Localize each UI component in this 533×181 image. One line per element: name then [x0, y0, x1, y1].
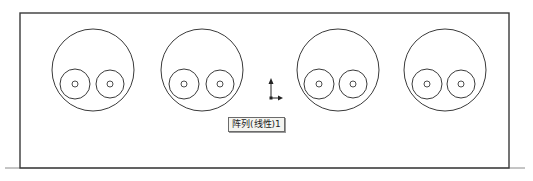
- tooltip-label: 阵列(线性)1: [232, 119, 281, 129]
- outer-circle[interactable]: [52, 29, 134, 111]
- pattern-instance-1[interactable]: [52, 29, 134, 111]
- hole-circle[interactable]: [447, 70, 475, 98]
- pattern-instance-2[interactable]: [161, 29, 243, 111]
- hole-center-circle[interactable]: [316, 81, 322, 87]
- cad-sketch-canvas[interactable]: [0, 0, 533, 181]
- outer-circle[interactable]: [161, 29, 243, 111]
- hole-center-circle[interactable]: [350, 81, 356, 87]
- hole-circle[interactable]: [96, 70, 124, 98]
- feature-tooltip: 阵列(线性)1: [228, 117, 285, 132]
- hole-circle[interactable]: [339, 70, 367, 98]
- hole-center-circle[interactable]: [181, 81, 187, 87]
- hole-center-circle[interactable]: [424, 81, 430, 87]
- sketch-frame[interactable]: [20, 13, 509, 168]
- hole-circle[interactable]: [60, 69, 90, 99]
- hole-circle[interactable]: [206, 70, 234, 98]
- outer-circle[interactable]: [404, 29, 486, 111]
- hole-circle[interactable]: [412, 69, 442, 99]
- hole-center-circle[interactable]: [458, 81, 464, 87]
- hole-circle[interactable]: [304, 69, 334, 99]
- hole-center-circle[interactable]: [217, 81, 223, 87]
- hole-center-circle[interactable]: [72, 81, 78, 87]
- coordinate-axes-icon: [269, 78, 284, 101]
- linear-pattern-instances: [52, 29, 486, 111]
- outer-circle[interactable]: [297, 29, 379, 111]
- pattern-instance-3[interactable]: [297, 29, 379, 111]
- hole-circle[interactable]: [169, 69, 199, 99]
- pattern-instance-4[interactable]: [404, 29, 486, 111]
- hole-center-circle[interactable]: [107, 81, 113, 87]
